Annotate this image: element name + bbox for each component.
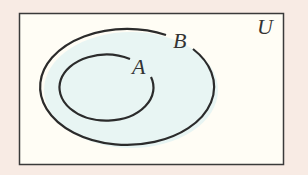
venn-diagram: U B A bbox=[0, 0, 308, 175]
set-b-label: B bbox=[173, 30, 186, 52]
universe-label: U bbox=[257, 16, 273, 38]
set-a-label: A bbox=[132, 56, 145, 78]
